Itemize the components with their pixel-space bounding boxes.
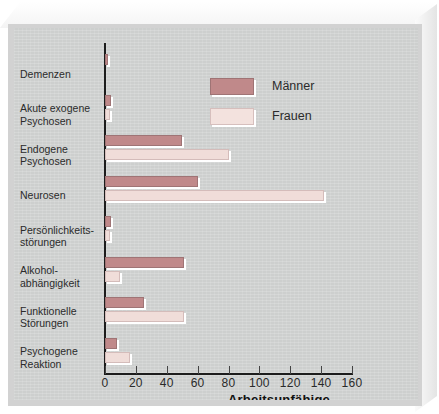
x-tick-label-60: 60 [183,376,213,390]
x-tick-60 [198,366,199,374]
bar-frauen-5 [105,271,120,282]
category-label-line: Neurosen [20,189,104,202]
x-tick-140 [321,366,322,374]
x-tick-label-80: 80 [214,376,244,390]
bar-maenner-4 [105,216,111,227]
bar-maenner-0 [105,54,108,65]
x-tick-80 [229,366,230,374]
category-label-line: Funktionelle [20,305,104,318]
scanned-page-frame: 020406080100120140160 DemenzenAkute exog… [0,0,439,414]
legend-swatch-female [210,108,254,125]
category-label-line: abhängigkeit [20,277,104,290]
plot-area: 020406080100120140160 DemenzenAkute exog… [14,28,418,400]
bar-frauen-2 [105,149,229,160]
bar-maenner-5 [105,257,184,268]
category-label-line: Psychogene [20,345,104,358]
category-label-5: Alkohol-abhängigkeit [20,264,104,289]
x-axis-title: Arbeitsunfähige [228,392,330,400]
x-tick-label-0: 0 [90,376,120,390]
bar-maenner-2 [105,135,182,146]
category-label-line: Reaktion [20,358,104,371]
bar-frauen-4 [105,230,110,241]
bar-maenner-3 [105,176,198,187]
bar-maenner-7 [105,338,117,349]
legend-label-female: Frauen [272,109,312,123]
x-tick-40 [167,366,168,374]
category-label-7: PsychogeneReaktion [20,345,104,370]
category-label-line: Psychosen [20,115,104,128]
bar-frauen-7 [105,352,130,363]
x-tick-label-100: 100 [244,376,274,390]
category-label-4: Persönlichkeits-störungen [20,224,104,249]
category-label-line: Alkohol- [20,264,104,277]
bar-frauen-3 [105,190,324,201]
category-label-2: EndogenePsychosen [20,143,104,168]
category-label-3: Neurosen [20,189,104,202]
category-label-0: Demenzen [20,68,104,81]
bar-maenner-1 [105,95,111,106]
x-tick-100 [259,366,260,374]
x-tick-label-140: 140 [306,376,336,390]
category-label-1: Akute exogenePsychosen [20,102,104,127]
category-label-line: Psychosen [20,155,104,168]
legend-swatch-male [210,78,254,95]
x-tick-0 [105,366,106,374]
bar-frauen-6 [105,311,184,322]
x-tick-label-120: 120 [275,376,305,390]
category-label-line: Akute exogene [20,102,104,115]
category-label-line: Demenzen [20,68,104,81]
category-label-line: Endogene [20,143,104,156]
legend-label-male: Männer [272,79,314,93]
x-tick-160 [352,366,353,374]
x-tick-label-40: 40 [152,376,182,390]
x-tick-20 [136,366,137,374]
category-label-line: Persönlichkeits- [20,224,104,237]
chart-canvas: 020406080100120140160 DemenzenAkute exog… [14,28,418,400]
category-label-line: störungen [20,236,104,249]
x-tick-label-160: 160 [337,376,367,390]
category-label-6: FunktionelleStörungen [20,305,104,330]
x-tick-120 [290,366,291,374]
category-label-line: Störungen [20,317,104,330]
y-axis-line [104,43,106,375]
bar-frauen-1 [105,109,110,120]
x-tick-label-20: 20 [121,376,151,390]
bar-maenner-6 [105,297,144,308]
